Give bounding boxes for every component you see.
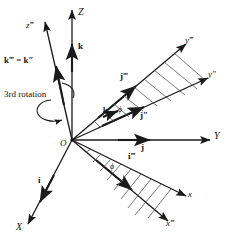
rotation-diagram: Z z‴ k k‴ = k″ 3rd rotation O y‴ y″ j‴ j… (0, 0, 232, 239)
vector-label-j-triple-prime: j‴ (120, 72, 128, 81)
axis-label-y-triple-prime: y‴ (185, 36, 193, 45)
axis-label-z-triple-prime: z‴ (26, 21, 33, 30)
vector-label-k-phi: k (103, 107, 107, 115)
phi-upper-hatching (94, 53, 205, 128)
angle-label-phi-lower: ϕ (110, 163, 114, 171)
diagram-canvas (0, 0, 232, 239)
vector-k-triple-prime (56, 66, 64, 105)
angle-label-phi-upper: ϕ (118, 106, 122, 114)
vector-label-j-double-prime: j″ (140, 111, 148, 120)
axis-label-x: x (188, 190, 192, 199)
vector-i (40, 175, 54, 202)
vector-label-k: k (78, 42, 83, 51)
vector-label-j: j (141, 143, 144, 152)
rotation-caption: 3rd rotation (4, 90, 46, 99)
origin-point (70, 138, 73, 141)
vector-label-i-triple-prime: i‴ (128, 152, 135, 161)
axis-label-y-double-prime: y″ (208, 70, 216, 79)
axis-label-Y: Y (214, 131, 220, 141)
axis-label-Z: Z (78, 7, 84, 17)
vector-label-i: i (38, 176, 41, 185)
origin-label: O (60, 139, 67, 148)
vector-label-k-triple-prime: k‴ = k″ (4, 56, 34, 65)
axis-label-X: X (16, 222, 22, 232)
axis-label-x-triple-prime: x‴ (166, 219, 174, 228)
